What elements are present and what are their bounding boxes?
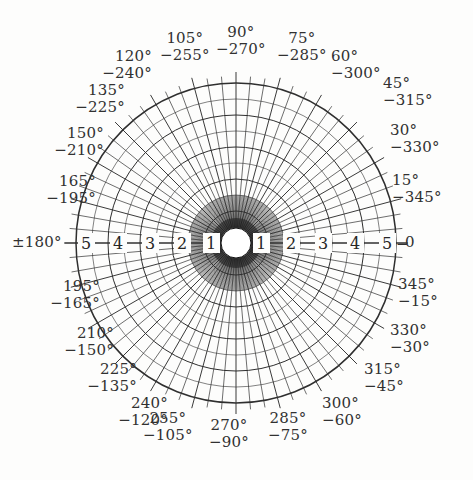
angle-label-195-secondary: −165° [8,295,100,312]
angle-label-90: 90° −270° [216,24,266,58]
angle-label-225: 225° −135° [45,361,137,395]
angle-label-120-primary: 120° [115,47,152,65]
angle-label-270-primary: 270° [211,416,248,434]
angle-label-60: 60° −300° [331,48,381,82]
angle-label-75: 75° −285° [277,30,327,64]
angle-label-195: 195° −165° [8,278,100,312]
spoke-major [247,254,357,364]
angle-label-255: 255° −105° [143,410,193,444]
angle-label-165: 165° −195° [4,173,96,207]
angle-label-255-secondary: −105° [143,427,193,444]
angle-label-165-secondary: −195° [4,190,96,207]
angle-label-45-primary: 45° [383,74,410,92]
angle-label-135-primary: 135° [88,81,125,99]
radial-tick-left-1: 1 [203,234,219,253]
radial-tick-right-4: 4 [347,234,363,253]
angle-label-105-primary: 105° [166,29,203,47]
spoke-major [247,122,357,232]
radial-tick-left-3: 3 [142,234,158,253]
angle-label-255-primary: 255° [149,409,186,427]
angle-label-210-primary: 210° [77,324,114,342]
angle-label-90-secondary: −270° [216,41,266,58]
radial-tick-left-4: 4 [110,234,126,253]
radial-tick-right-2: 2 [283,234,299,253]
radial-tick-right-5: 5 [379,234,395,253]
angle-label-285: 285° −75° [268,410,308,444]
angle-label-270-secondary: −90° [209,434,249,451]
angle-label-300-primary: 300° [322,394,359,412]
axis-end-dash: − [396,235,409,253]
angle-label-300-secondary: −60° [322,412,362,429]
spoke-major [115,122,225,232]
angle-label-150-primary: 150° [67,124,104,142]
angle-label-30-primary: 30° [390,121,417,139]
angle-label-225-secondary: −135° [45,378,137,395]
angle-label-210-secondary: −150° [22,342,114,359]
angle-label-15: 15° −345° [392,172,442,206]
angle-label-90-primary: 90° [227,23,254,41]
angle-label-60-secondary: −300° [331,65,381,82]
angle-label-120-secondary: −240° [62,65,152,82]
angle-label-75-secondary: −285° [277,47,327,64]
angle-label-105-secondary: −255° [160,47,210,64]
radial-tick-left-2: 2 [174,234,190,253]
angle-label-315-primary: 315° [364,360,401,378]
angle-label-270: 270° −90° [209,417,249,451]
radial-tick-left-5: 5 [78,234,94,253]
radial-tick-right-1: 1 [253,234,269,253]
angle-label-105: 105° −255° [160,30,210,64]
angle-label-30-secondary: −330° [390,139,440,156]
angle-label-75-primary: 75° [288,29,315,47]
angle-label-315: 315° −45° [364,361,404,395]
angle-label-300: 300° −60° [322,395,362,429]
center-disc [221,228,251,258]
angle-label-30: 30° −330° [390,122,440,156]
angle-label-285-primary: 285° [270,409,307,427]
angle-label-210: 210° −150° [22,325,114,359]
angle-label-60-primary: 60° [331,47,358,65]
spoke-major [115,254,225,364]
angle-label-195-primary: 195° [63,277,100,295]
angle-label-345-primary: 345° [398,275,435,293]
angle-label-345: 345° −15° [398,276,438,310]
angle-label-330-secondary: −30° [390,339,430,356]
angle-label-165-primary: 165° [59,172,96,190]
angle-label-45: 45° −315° [383,75,433,109]
angle-label-345-secondary: −15° [398,293,438,310]
angle-label-150-secondary: −210° [12,142,104,159]
angle-label-15-primary: 15° [392,171,419,189]
angle-label-315-secondary: −45° [364,378,404,395]
angle-label-135: 135° −225° [33,82,125,116]
angle-label-120: 120° −240° [62,48,152,82]
radial-tick-right-3: 3 [315,234,331,253]
angle-label-180-primary: ±180° [12,233,62,251]
angle-label-15-secondary: −345° [392,189,442,206]
polar-chart-figure: 0 15° −345° 30° −330° 45° −315° 60° −300… [0,0,473,480]
angle-label-180: ±180° [12,234,62,251]
angle-label-45-secondary: −315° [383,92,433,109]
angle-label-150: 150° −210° [12,125,104,159]
angle-label-330: 330° −30° [390,322,430,356]
angle-label-330-primary: 330° [390,321,427,339]
angle-label-135-secondary: −225° [33,99,125,116]
angle-label-285-secondary: −75° [268,427,308,444]
angle-label-225-primary: 225° [100,360,137,378]
